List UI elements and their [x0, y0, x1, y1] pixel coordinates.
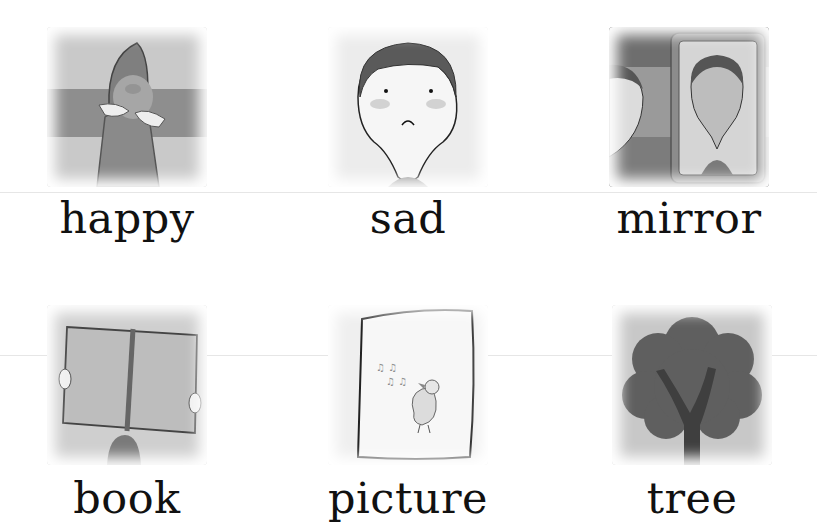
boy-in-mirror-illustration: [609, 27, 769, 187]
sad-boy-illustration: [328, 27, 488, 187]
word-label: happy: [7, 197, 247, 240]
word-label: mirror: [569, 197, 809, 240]
svg-text:♫ ♫: ♫ ♫: [376, 362, 397, 373]
word-label: sad: [288, 197, 528, 240]
svg-text:♫ ♫: ♫ ♫: [386, 376, 407, 387]
word-label: book: [7, 477, 247, 520]
word-label: picture: [288, 477, 528, 520]
framed-singing-bird-illustration: ♫ ♫ ♫ ♫: [328, 305, 488, 465]
child-reading-book-illustration: [47, 305, 207, 465]
word-label: tree: [572, 477, 812, 520]
happy-child-illustration: [47, 27, 207, 187]
tree-illustration: [612, 305, 772, 465]
